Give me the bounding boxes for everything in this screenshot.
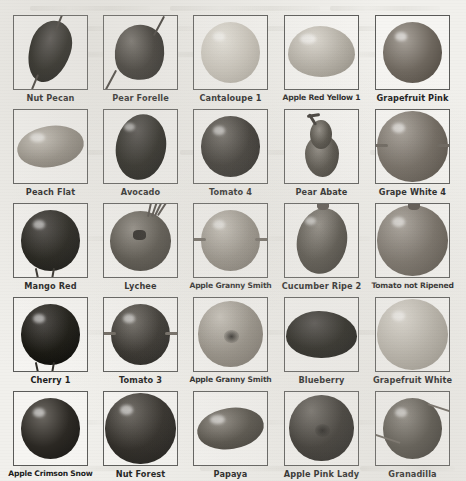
image-frame <box>13 203 88 278</box>
fruit-photo <box>14 110 87 183</box>
image-frame <box>375 15 450 90</box>
image-frame <box>193 297 268 372</box>
highlight-spot <box>395 32 407 41</box>
image-frame <box>284 297 359 372</box>
fruit-photo <box>285 392 358 465</box>
fruit-body <box>21 210 81 271</box>
image-frame <box>13 297 88 372</box>
fruit-photo <box>104 110 177 183</box>
image-caption: Tomato not Ripened <box>367 281 458 291</box>
fruit-body <box>201 116 261 177</box>
fruit-body <box>21 304 81 365</box>
image-caption: Granadilla <box>367 469 458 479</box>
image-frame <box>284 15 359 90</box>
fruit-photo <box>104 204 177 277</box>
image-caption: Nut Forest <box>95 469 186 479</box>
image-caption: Apple Red Yellow 1 <box>276 93 367 103</box>
fruit-photo <box>14 298 87 371</box>
grid-cell: Grapefruit White <box>367 297 458 385</box>
image-frame <box>375 203 450 278</box>
image-frame <box>13 15 88 90</box>
image-caption: Grapefruit White <box>367 375 458 385</box>
fruit-photo <box>104 16 177 89</box>
fruit-stem <box>317 204 329 210</box>
grid-cell: Mango Red <box>5 203 96 291</box>
fruit-photo <box>14 204 87 277</box>
image-caption: Grape White 4 <box>367 187 458 197</box>
fruit-body <box>286 311 356 358</box>
fruit-photo <box>376 392 449 465</box>
image-frame <box>284 109 359 184</box>
highlight-spot <box>300 34 316 44</box>
grid-cell: Tomato 4 <box>185 109 276 197</box>
fruit-body <box>377 299 447 369</box>
image-frame <box>193 391 268 466</box>
apple-calyx <box>315 424 330 436</box>
fruit-photo <box>376 16 449 89</box>
image-frame <box>284 391 359 466</box>
image-frame <box>103 203 178 278</box>
image-caption: Apple Crimson Snow <box>5 469 96 479</box>
fruit-body <box>110 110 170 183</box>
grid-cell: Nut Forest <box>95 391 186 479</box>
image-caption: Peach Flat <box>5 187 96 197</box>
grid-cell: Cantaloupe 1 <box>185 15 276 103</box>
grid-cell: Grape White 4 <box>367 109 458 197</box>
image-frame <box>13 109 88 184</box>
fruit-photo <box>104 298 177 371</box>
fruit-photo <box>285 16 358 89</box>
fruit-body <box>21 398 81 459</box>
image-caption: Blueberry <box>276 375 367 385</box>
image-frame <box>103 297 178 372</box>
highlight-spot <box>392 217 405 226</box>
fruit-image-grid: Nut PecanPear ForelleCantaloupe 1Apple R… <box>0 0 466 481</box>
highlight-spot <box>33 408 45 417</box>
image-caption: Grapefruit Pink <box>367 93 458 103</box>
highlight-spot <box>392 311 405 320</box>
fruit-photo <box>376 298 449 371</box>
fruit-stem <box>31 75 39 89</box>
fruit-body <box>194 403 267 454</box>
grid-cell: Apple Granny Smith <box>185 297 276 385</box>
image-caption: Cucumber Ripe 2 <box>276 281 367 291</box>
image-caption: Lychee <box>95 281 186 291</box>
fruit-stem <box>376 144 388 147</box>
highlight-spot <box>33 220 45 229</box>
highlight-spot <box>392 123 405 132</box>
image-caption: Apple Granny Smith <box>185 281 276 291</box>
fruit-body <box>111 304 171 365</box>
highlight-spot <box>213 220 225 229</box>
fruit-body <box>377 205 447 275</box>
fruit-body <box>110 211 171 271</box>
image-caption: Mango Red <box>5 281 96 291</box>
grid-cell: Tomato 3 <box>95 297 186 385</box>
grid-cell: Blueberry <box>276 297 367 385</box>
grid-cell: Tomato not Ripened <box>367 203 458 291</box>
fruit-photo <box>376 110 449 183</box>
highlight-spot <box>395 408 407 417</box>
image-caption: Tomato 4 <box>185 187 276 197</box>
fruit-photo <box>285 110 358 183</box>
image-frame <box>103 391 178 466</box>
fruit-body <box>291 204 351 277</box>
fruit-photo <box>285 204 358 277</box>
fruit-stem <box>437 144 449 147</box>
fruit-photo <box>104 392 177 465</box>
grid-cell: Granadilla <box>367 391 458 479</box>
fruit-body <box>201 22 261 83</box>
fruit-photo <box>376 204 449 277</box>
highlight-spot <box>120 405 133 414</box>
fruit-stem <box>194 238 206 241</box>
image-caption: Apple Pink Lady <box>276 469 367 479</box>
highlight-spot <box>213 126 225 135</box>
grid-cell: Apple Pink Lady <box>276 391 367 479</box>
fruit-photo <box>14 392 87 465</box>
highlight-spot <box>123 314 135 323</box>
image-frame <box>13 391 88 466</box>
fruit-photo <box>194 392 267 465</box>
grid-cell: Peach Flat <box>5 109 96 197</box>
image-caption: Cherry 1 <box>5 375 96 385</box>
highlight-spot <box>210 415 225 424</box>
image-caption: Pear Abate <box>276 187 367 197</box>
fruit-stem <box>35 362 39 371</box>
